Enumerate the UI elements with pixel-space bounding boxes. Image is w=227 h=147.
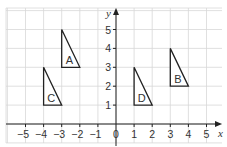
y-axis-arrow-icon (113, 8, 119, 15)
x-tick-label: −3 (53, 128, 65, 140)
x-tick-label: 1 (131, 128, 137, 140)
grid-lines (6, 8, 222, 143)
axes: −5−4−3−2−101234512345xy (6, 7, 223, 146)
y-tick-label: 4 (105, 42, 111, 54)
x-tick-label: 4 (185, 128, 191, 140)
x-tick-label: −5 (17, 128, 29, 140)
y-tick-label: 5 (105, 24, 111, 36)
x-tick-label: 0 (113, 128, 119, 140)
x-tick-label: 2 (149, 128, 155, 140)
x-axis-label: x (217, 127, 223, 139)
y-axis-label: y (105, 7, 111, 19)
y-tick-label: 3 (105, 61, 111, 73)
x-tick-label: 3 (167, 128, 173, 140)
y-tick-label: 1 (105, 99, 111, 111)
x-tick-label: −1 (89, 128, 101, 140)
x-tick-label: −4 (35, 128, 47, 140)
triangle-label: D (138, 92, 146, 104)
x-tick-label: −2 (71, 128, 83, 140)
coordinate-grid: −5−4−3−2−101234512345xy ABCD (0, 0, 227, 147)
y-tick-label: 2 (105, 80, 111, 92)
triangle-label: C (47, 92, 55, 104)
triangle-label: B (174, 73, 181, 85)
triangle-label: A (66, 54, 74, 66)
x-tick-label: 5 (204, 128, 210, 140)
